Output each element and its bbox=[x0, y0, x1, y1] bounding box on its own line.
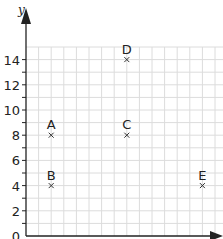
data-point-c: C bbox=[122, 117, 131, 138]
y-tick-label: 6 bbox=[12, 153, 20, 168]
data-point-b: B bbox=[47, 168, 56, 189]
data-point-a: A bbox=[47, 117, 56, 138]
point-label: D bbox=[122, 42, 132, 57]
y-tick-labels: 02468101214 bbox=[3, 53, 26, 239]
point-label: B bbox=[47, 168, 56, 183]
y-tick-label: 0 bbox=[12, 229, 20, 239]
y-tick-label: 2 bbox=[12, 204, 20, 219]
grid bbox=[26, 47, 223, 236]
x-axis-arrow-icon bbox=[210, 231, 223, 239]
y-axis-label: y bbox=[17, 3, 25, 17]
data-point-e: E bbox=[198, 168, 206, 189]
y-tick-label: 10 bbox=[3, 103, 20, 118]
y-tick-label: 4 bbox=[12, 179, 20, 194]
point-label: A bbox=[47, 117, 56, 132]
point-label: E bbox=[198, 168, 206, 183]
y-tick-label: 8 bbox=[12, 128, 20, 143]
scatter-chart: y 02468101214 ABCDE bbox=[0, 0, 223, 239]
y-tick-label: 14 bbox=[3, 53, 20, 68]
data-point-d: D bbox=[122, 42, 132, 63]
y-tick-label: 12 bbox=[3, 78, 20, 93]
point-label: C bbox=[122, 117, 131, 132]
